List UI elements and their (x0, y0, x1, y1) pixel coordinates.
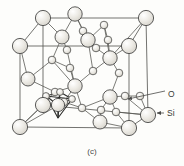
oxygen-atom (48, 56, 56, 64)
figure-caption: (c) (0, 147, 184, 156)
silicon-atom-corner (12, 38, 27, 53)
silicon-atom-interior (103, 51, 117, 65)
silicon-atom-corner (140, 107, 155, 122)
oxygen-atom (100, 21, 108, 29)
oxygen-atom (115, 69, 123, 77)
silicon-atom-interior (68, 79, 82, 93)
oxygen-label: O (168, 89, 175, 99)
oxygen-atom (104, 36, 112, 44)
silicon-atom-corner (138, 10, 153, 25)
silicon-label: Si (167, 108, 175, 118)
oxygen-atom (89, 67, 97, 75)
oxygen-atom (57, 89, 64, 96)
silicon-atom-corner (121, 38, 136, 53)
silicon-atom-interior (81, 33, 95, 47)
crystal-structure-drawing (0, 0, 184, 166)
silicon-atom-interior (68, 7, 82, 21)
oxygen-atom (78, 104, 86, 112)
silicon-atom-interior (103, 90, 117, 104)
silicon-atom-corner (121, 120, 136, 135)
silicon-atom-corner (35, 97, 50, 112)
oxygen-atom (69, 96, 76, 103)
silicon-atom-interior (21, 72, 35, 86)
silicon-atom-interior (93, 115, 107, 129)
oxygen-atom (121, 92, 129, 100)
silicon-atoms (12, 7, 155, 136)
oxygen-atom (112, 108, 120, 116)
silicon-atom-tetra-center (51, 98, 64, 111)
oxygen-leader-line (128, 91, 165, 99)
figure-cristobalite-structure: O Si (c) (0, 0, 184, 166)
oxygen-atom (66, 64, 74, 72)
oxygen-atom (63, 46, 71, 54)
silicon-atom-interior (55, 30, 69, 44)
silicon-atom-corner (35, 10, 50, 25)
silicon-atom-corner (12, 119, 27, 134)
oxygen-atom (97, 106, 105, 114)
